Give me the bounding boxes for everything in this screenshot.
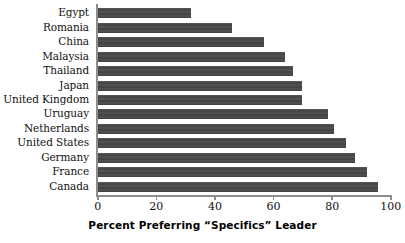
category-label: Romania xyxy=(43,22,89,33)
plot-area xyxy=(97,6,390,194)
bar xyxy=(97,182,378,192)
bar xyxy=(97,138,346,148)
x-axis-tick-label: 40 xyxy=(208,200,222,213)
category-label: Egypt xyxy=(58,7,89,18)
x-axis-line xyxy=(96,195,391,197)
bar xyxy=(97,109,328,119)
bar xyxy=(97,66,293,76)
y-axis-line xyxy=(96,4,98,196)
bar xyxy=(97,23,232,33)
category-label: France xyxy=(52,166,89,177)
x-axis-tick-label: 60 xyxy=(267,200,281,213)
x-axis-tick-label: 80 xyxy=(325,200,339,213)
category-label: United Kingdom xyxy=(3,94,89,105)
category-label: Japan xyxy=(59,80,89,91)
bar xyxy=(97,95,302,105)
bar xyxy=(97,153,355,163)
x-axis-title: Percent Preferring “Specifics” Leader xyxy=(0,219,405,231)
category-axis-labels: EgyptRomaniaChinaMalaysiaThailandJapanUn… xyxy=(0,6,93,194)
category-label: Germany xyxy=(41,152,89,163)
bar xyxy=(97,37,264,47)
x-axis-tick-label: 100 xyxy=(380,200,401,213)
bar xyxy=(97,8,191,18)
x-axis-tick-label: 0 xyxy=(94,200,101,213)
category-label: China xyxy=(58,36,89,47)
bar-chart: EgyptRomaniaChinaMalaysiaThailandJapanUn… xyxy=(0,0,405,243)
bar xyxy=(97,81,302,91)
bar xyxy=(97,167,367,177)
bar xyxy=(97,52,285,62)
category-label: Malaysia xyxy=(42,51,89,62)
bar xyxy=(97,124,334,134)
category-label: Thailand xyxy=(43,65,89,76)
category-label: Netherlands xyxy=(24,123,89,134)
category-label: Canada xyxy=(49,181,89,192)
category-label: United States xyxy=(17,137,89,148)
category-label: Uruguay xyxy=(43,108,89,119)
x-axis-tick-label: 20 xyxy=(149,200,163,213)
